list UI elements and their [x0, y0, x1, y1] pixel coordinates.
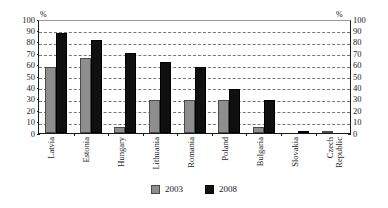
x-axis-label-lithuania: Lithuania: [151, 137, 161, 183]
bar-latvia-2003: [45, 67, 56, 133]
x-axis-label-cell: Romania: [177, 136, 212, 182]
bar-group: [212, 21, 247, 133]
x-axis-label-latvia: Latvia: [46, 137, 56, 183]
y-tick-label-right-100: 100: [353, 16, 366, 25]
x-axis-label-hungary: Hungary: [116, 137, 126, 183]
y-tick-label-right-50: 50: [353, 73, 362, 82]
y-tick-label-left-50: 50: [27, 73, 36, 82]
y-tick-label-left-90: 90: [27, 27, 36, 36]
y-tick-label-right-60: 60: [353, 61, 362, 70]
y-tick-label-left-80: 80: [27, 38, 36, 47]
plot-area: [38, 20, 351, 134]
bar-lithuania-2008: [160, 62, 171, 133]
bar-bulgaria-2008: [264, 100, 275, 133]
bar-romania-2003: [184, 100, 195, 133]
legend-label-2008: 2008: [219, 185, 237, 194]
bar-czech-republic-2003: [322, 131, 333, 133]
y-axis-unit-left: %: [40, 11, 47, 19]
x-axis-label-estonia: Estonia: [81, 137, 91, 183]
y-axis-unit-right: %: [336, 11, 343, 19]
y-tick-label-right-20: 20: [353, 107, 362, 116]
x-axis-label-cell: Estonia: [73, 136, 108, 182]
y-tick-label-right-70: 70: [353, 50, 362, 59]
x-axis-label-cell: Lithuania: [142, 136, 177, 182]
bar-romania-2008: [195, 67, 206, 133]
legend-label-2003: 2003: [165, 185, 183, 194]
legend-swatch-2003: [151, 185, 160, 194]
y-tick-label-right-90: 90: [353, 27, 362, 36]
y-tick-label-left-60: 60: [27, 61, 36, 70]
x-axis-label-cell: Slovakia: [281, 136, 316, 182]
bar-poland-2008: [229, 89, 240, 133]
bar-group: [74, 21, 109, 133]
bar-bulgaria-2003: [253, 127, 264, 133]
y-tick-label-left-0: 0: [31, 130, 35, 139]
legend-item-2008[interactable]: 2008: [205, 185, 237, 194]
y-tick-label-right-30: 30: [353, 95, 362, 104]
bar-group: [316, 21, 351, 133]
bar-hungary-2008: [125, 53, 136, 133]
x-axis-label-cell: Poland: [212, 136, 247, 182]
bar-slovakia-2008: [298, 131, 309, 133]
x-axis-label-romania: Romania: [186, 137, 196, 183]
y-tick-label-left-10: 10: [27, 118, 36, 127]
x-axis-label-cell: Latvia: [38, 136, 73, 182]
y-tick-label-left-40: 40: [27, 84, 36, 93]
bar-groups: [39, 21, 350, 133]
bar-estonia-2008: [91, 40, 102, 133]
bar-hungary-2003: [114, 127, 125, 133]
legend-item-2003[interactable]: 2003: [151, 185, 183, 194]
y-axis-right: 1009080706050403020100: [351, 20, 373, 134]
x-axis-label-cell: Hungary: [108, 136, 143, 182]
chart-legend: 20032008: [0, 185, 388, 194]
y-tick-label-left-30: 30: [27, 95, 36, 104]
y-tick-label-left-70: 70: [27, 50, 36, 59]
x-axis-label-bulgaria: Bulgaria: [255, 137, 265, 183]
bar-poland-2003: [218, 100, 229, 133]
x-axis-label-poland: Poland: [220, 137, 230, 183]
bar-estonia-2003: [80, 58, 91, 133]
y-tick-label-right-0: 0: [353, 130, 357, 139]
x-axis-label-republic: Republic: [334, 137, 344, 183]
bar-group: [177, 21, 212, 133]
bar-lithuania-2003: [149, 100, 160, 133]
bar-group: [108, 21, 143, 133]
bar-group: [281, 21, 316, 133]
bar-group: [246, 21, 281, 133]
y-tick-label-left-20: 20: [27, 107, 36, 116]
y-axis-left: 1009080706050403020100: [15, 20, 37, 134]
y-tick-label-left-100: 100: [22, 16, 35, 25]
x-axis-label-cell: Bulgaria: [247, 136, 282, 182]
y-tick-label-right-10: 10: [353, 118, 362, 127]
x-axis-category-labels: LatviaEstoniaHungaryLithuaniaRomaniaPola…: [38, 136, 351, 182]
x-axis-label-cell: CzechRepublic: [316, 136, 351, 182]
x-axis-label-slovakia: Slovakia: [290, 137, 300, 183]
bar-group: [143, 21, 178, 133]
y-tick-label-right-40: 40: [353, 84, 362, 93]
legend-swatch-2008: [205, 185, 214, 194]
y-tick-label-right-80: 80: [353, 38, 362, 47]
bar-group: [39, 21, 74, 133]
bar-latvia-2008: [56, 33, 67, 133]
bar-chart: % % 1009080706050403020100 1009080706050…: [0, 0, 388, 208]
